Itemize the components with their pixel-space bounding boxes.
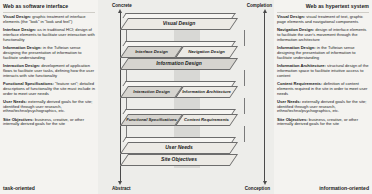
definition-item: Site Objectives: business, creative, or …	[277, 118, 369, 128]
plane-front-face-right	[175, 114, 238, 126]
plane-front-face-right	[175, 46, 238, 58]
right-panel-definitions: Visual Design: visual treatment of text,…	[274, 13, 372, 127]
right-orientation-label: information-oriented	[319, 185, 369, 191]
left-orientation-label: task-oriented	[3, 185, 35, 191]
plane-connector-leg	[244, 98, 245, 114]
definition-item: Information Design: in the Tufteian sens…	[3, 46, 95, 61]
plane-front-face-left	[120, 86, 183, 98]
definition-item: User Needs: externally derived goals for…	[3, 100, 95, 115]
definition-item: Information Architecture: structural des…	[277, 64, 369, 79]
plane-connector-leg	[244, 30, 245, 46]
plane-front-face	[120, 58, 238, 70]
definition-item: Functional Specifications: "feature set"…	[3, 82, 95, 97]
plane-site-objectives[interactable]: Site Objectives	[124, 154, 246, 171]
plane-visual-design[interactable]: Visual Design	[124, 18, 246, 35]
left-panel-definitions: Visual Design: graphic treatment of inte…	[0, 13, 98, 127]
plane-information-design[interactable]: Information Design	[124, 58, 246, 75]
plane-connector-leg	[244, 126, 245, 142]
plane-front-face	[120, 142, 238, 154]
left-panel-title: Web as software interface	[0, 0, 98, 10]
right-panel: Web as hypertext system Visual Design: v…	[274, 0, 372, 194]
definition-item: Visual Design: visual treatment of text,…	[277, 15, 369, 25]
left-panel: Web as software interface Visual Design:…	[0, 0, 98, 194]
plane-front-face-left	[120, 114, 183, 126]
definition-item: User Needs: externally derived goals for…	[277, 100, 369, 115]
plane-functional-specifications-content-requirements[interactable]: Functional Specifications Content Requir…	[124, 114, 246, 131]
definition-item: Information Design: in the Tufteian sens…	[277, 46, 369, 61]
definition-item: Interface Design: as in traditional HCI;…	[3, 28, 95, 43]
plane-front-face-left	[120, 46, 183, 58]
definition-item: Visual Design: graphic treatment of inte…	[3, 15, 95, 25]
definition-item: Site Objectives: business, creative, or …	[3, 118, 95, 128]
plane-connector-leg	[244, 70, 245, 86]
plane-front-face-right	[175, 86, 238, 98]
right-panel-title: Web as hypertext system	[274, 0, 372, 10]
plane-front-face	[120, 154, 238, 166]
definition-item: Content Requirements: definition of cont…	[277, 82, 369, 97]
plane-front-face	[120, 18, 238, 30]
diagram-stage: Concrete Completion Abstract Conception …	[98, 0, 274, 194]
elements-stack: Visual Design Interface Design Navigatio…	[98, 0, 274, 194]
definition-item: Navigation Design: design of interface e…	[277, 28, 369, 43]
diagram-page: Web as software interface Visual Design:…	[0, 0, 372, 194]
plane-interaction-design-information-architecture[interactable]: Interaction Design Information Architect…	[124, 86, 246, 103]
definition-item: Interaction Design: development of appli…	[3, 64, 95, 79]
